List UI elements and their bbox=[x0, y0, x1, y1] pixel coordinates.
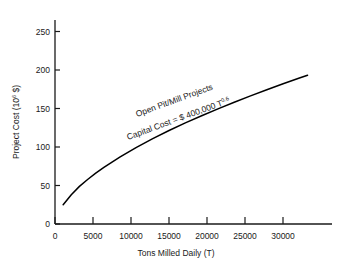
y-tick-label-150: 150 bbox=[36, 104, 50, 114]
y-tick-label-250: 250 bbox=[36, 27, 50, 37]
x-tick-label-5000: 5000 bbox=[84, 231, 103, 241]
x-tick-label-15000: 15000 bbox=[157, 231, 181, 241]
formula-annotation-exponent: 0.6 bbox=[220, 95, 229, 103]
x-ticks bbox=[55, 217, 283, 224]
y-tick-labels: 0 50 100 150 200 250 bbox=[36, 27, 50, 230]
y-tick-label-50: 50 bbox=[41, 181, 51, 191]
svg-text:Project Cost (106 $): Project Cost (106 $) bbox=[11, 85, 21, 159]
x-tick-label-25000: 25000 bbox=[233, 231, 257, 241]
chart-svg: 0 50 100 150 200 250 0 5000 10000 15000 … bbox=[0, 0, 337, 264]
x-tick-label-20000: 20000 bbox=[195, 231, 219, 241]
y-axis-title: Project Cost (106 $) bbox=[11, 85, 21, 159]
x-tick-label-30000: 30000 bbox=[271, 231, 295, 241]
x-tick-label-0: 0 bbox=[53, 231, 58, 241]
y-axis-title-tail: $) bbox=[11, 85, 21, 95]
chart-figure: 0 50 100 150 200 250 0 5000 10000 15000 … bbox=[0, 0, 337, 264]
x-tick-label-10000: 10000 bbox=[119, 231, 143, 241]
y-ticks bbox=[55, 32, 60, 225]
y-tick-label-200: 200 bbox=[36, 65, 50, 75]
y-tick-label-100: 100 bbox=[36, 142, 50, 152]
y-axis-title-main: Project Cost (10 bbox=[11, 98, 21, 159]
x-tick-labels: 0 5000 10000 15000 20000 25000 30000 bbox=[53, 231, 295, 241]
y-tick-label-0: 0 bbox=[45, 219, 50, 229]
x-axis-title: Tons Milled Daily (T) bbox=[138, 248, 215, 258]
